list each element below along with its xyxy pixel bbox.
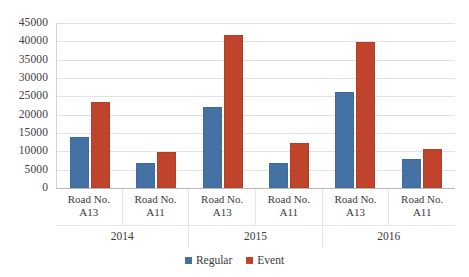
category-label: Road No.A11 [123,189,190,225]
category-label-line1: Road No. [56,193,122,206]
bar-event[interactable] [157,152,176,188]
group-label-2014: 2014 [56,226,189,248]
category-label-line1: Road No. [389,193,455,206]
category-label-line2: A13 [323,206,389,219]
bar-group [389,23,455,188]
category-label: Road No.A13 [323,189,390,225]
bar-regular[interactable] [70,137,89,188]
y-tick-label: 20000 [19,109,48,121]
legend-swatch-icon [185,257,192,264]
legend-swatch-icon [246,257,253,264]
category-axis: Road No.A13Road No.A11Road No.A13Road No… [56,189,455,225]
y-tick-label: 35000 [19,54,48,66]
bar-chart: 4500040000350003000025000200001500010000… [0,0,469,277]
y-tick-label: 45000 [19,17,48,29]
y-axis: 4500040000350003000025000200001500010000… [0,0,52,196]
legend-item-regular[interactable]: Regular [185,254,232,266]
bar-group [57,23,123,188]
category-label-line1: Road No. [256,193,322,206]
chart-legend: RegularEvent [0,250,469,270]
y-tick-label: 30000 [19,72,48,84]
bar-event[interactable] [224,35,243,188]
category-label-line2: A13 [189,206,255,219]
category-label: Road No.A13 [56,189,123,225]
bar-event[interactable] [290,143,309,188]
category-label-line1: Road No. [189,193,255,206]
category-label-line1: Road No. [123,193,189,206]
category-label-line2: A13 [56,206,122,219]
legend-label: Regular [196,254,232,266]
bar-regular[interactable] [269,163,288,188]
category-label-line2: A11 [256,206,322,219]
category-label-line1: Road No. [323,193,389,206]
y-tick-label: 25000 [19,91,48,103]
group-label-2015: 2015 [189,226,322,248]
plot-wrapper: 4500040000350003000025000200001500010000… [0,0,469,196]
legend-item-event[interactable]: Event [246,254,284,266]
plot-area [56,23,455,189]
category-label-line2: A11 [123,206,189,219]
bars-layer [57,23,455,188]
y-tick-label: 0 [42,182,48,194]
legend-label: Event [257,254,284,266]
y-tick-label: 10000 [19,146,48,158]
bar-regular[interactable] [402,159,421,188]
bar-group [256,23,322,188]
category-label-line2: A11 [389,206,455,219]
group-label-2016: 2016 [323,226,455,248]
y-tick-label: 15000 [19,127,48,139]
bar-regular[interactable] [203,107,222,188]
category-label: Road No.A13 [189,189,256,225]
bar-regular[interactable] [335,92,354,188]
bar-event[interactable] [91,102,110,188]
bar-group [322,23,388,188]
category-label: Road No.A11 [389,189,455,225]
category-label: Road No.A11 [256,189,323,225]
bar-group [123,23,189,188]
y-tick-label: 40000 [19,36,48,48]
bar-regular[interactable] [136,163,155,188]
bar-event[interactable] [423,149,442,188]
bar-group [190,23,256,188]
group-axis: 201420152016 [56,225,455,248]
y-tick-label: 5000 [25,164,48,176]
bar-event[interactable] [356,42,375,188]
